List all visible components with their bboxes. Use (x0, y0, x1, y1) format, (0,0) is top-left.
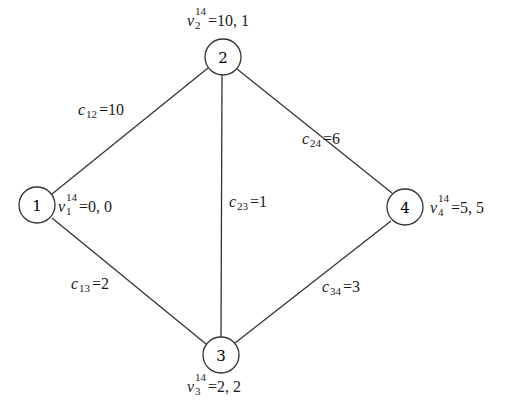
svg-text:14: 14 (438, 192, 450, 204)
network-diagram: 1 2 3 4 v 1 14 =0, 0 v 2 14 =10, 1 v 3 1… (0, 0, 507, 407)
node-3: 3 (203, 337, 239, 373)
svg-text:c: c (229, 193, 236, 210)
node-4: 4 (387, 189, 423, 225)
svg-text:12: 12 (86, 108, 97, 120)
node-2: 2 (205, 39, 241, 75)
node-1-label: 1 (32, 197, 42, 215)
edge-2-4 (237, 69, 392, 193)
svg-text:24: 24 (310, 137, 322, 149)
svg-text:2: 2 (195, 19, 201, 31)
edge-1-2-cost: c 12 =10 (78, 101, 124, 120)
node-4-value: v 4 14 =5, 5 (430, 192, 484, 218)
svg-text:34: 34 (330, 285, 342, 297)
node-1: 1 (19, 187, 55, 223)
edge-2-3-cost: c 23 =1 (229, 193, 267, 212)
node-3-label: 3 (216, 347, 226, 365)
edge-1-3-cost: c 13 =2 (71, 275, 109, 294)
svg-text:4: 4 (438, 206, 444, 218)
svg-text:c: c (302, 130, 309, 147)
svg-text:=1: =1 (250, 193, 267, 210)
svg-text:v: v (187, 12, 195, 29)
svg-text:=5, 5: =5, 5 (451, 199, 484, 216)
svg-text:c: c (71, 275, 78, 292)
svg-text:c: c (322, 278, 329, 295)
svg-text:14: 14 (66, 191, 78, 203)
svg-text:14: 14 (195, 371, 207, 383)
svg-text:=0, 0: =0, 0 (79, 198, 112, 215)
svg-text:=2: =2 (92, 275, 109, 292)
edge-3-4-cost: c 34 =3 (322, 278, 360, 297)
node-2-value: v 2 14 =10, 1 (187, 5, 249, 31)
svg-text:v: v (187, 378, 195, 395)
svg-text:=6: =6 (323, 130, 340, 147)
edge-2-3 (221, 75, 222, 337)
node-1-value: v 1 14 =0, 0 (58, 191, 112, 217)
edge-1-2 (52, 68, 208, 194)
svg-text:13: 13 (79, 282, 91, 294)
svg-text:23: 23 (237, 200, 249, 212)
node-4-label: 4 (400, 199, 410, 217)
svg-text:c: c (78, 101, 85, 118)
svg-text:=10: =10 (99, 101, 124, 118)
svg-text:v: v (58, 198, 66, 215)
svg-text:3: 3 (195, 385, 201, 397)
node-2-label: 2 (218, 49, 228, 67)
svg-text:1: 1 (66, 205, 72, 217)
svg-text:14: 14 (195, 5, 207, 17)
edge-3-4 (235, 221, 391, 343)
node-3-value: v 3 14 =2, 2 (187, 371, 241, 397)
edge-2-4-cost: c 24 =6 (302, 130, 340, 149)
svg-text:=3: =3 (343, 278, 360, 295)
svg-text:=10, 1: =10, 1 (208, 12, 249, 29)
svg-text:=2, 2: =2, 2 (208, 378, 241, 395)
svg-text:v: v (430, 199, 438, 216)
